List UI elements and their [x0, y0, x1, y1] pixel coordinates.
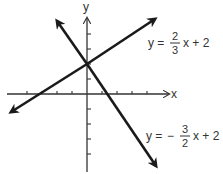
fraction-denominator: 2: [182, 137, 188, 149]
line-negative-slope-lower: [87, 64, 156, 166]
fraction-numerator: 3: [182, 123, 188, 135]
fraction-denominator: 3: [172, 44, 178, 56]
equation-prefix: y =: [148, 36, 164, 50]
coordinate-graph: x y y = 2 3 x + 2 y = − 3 2 x + 2: [0, 0, 223, 174]
fraction-numerator: 2: [172, 30, 178, 42]
y-axis-label: y: [83, 0, 89, 14]
line-positive-slope: [87, 19, 155, 64]
equation-suffix: x + 2: [183, 36, 210, 50]
line-negative-slope: [57, 21, 87, 64]
equation-suffix: x + 2: [193, 129, 220, 143]
line-positive-slope-left: [11, 64, 87, 112]
x-axis-label: x: [171, 87, 177, 101]
equation-label-positive: y = 2 3 x + 2: [148, 30, 210, 56]
equation-label-negative: y = − 3 2 x + 2: [146, 123, 220, 149]
equation-sign: −: [167, 129, 174, 143]
equation-prefix: y =: [146, 129, 162, 143]
